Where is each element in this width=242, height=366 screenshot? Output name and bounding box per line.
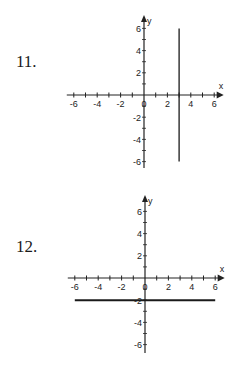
x-tick-label: 2 bbox=[165, 99, 170, 109]
x-tick-label: -6 bbox=[70, 99, 78, 109]
y-tick-label: 6 bbox=[136, 24, 141, 34]
x-tick-label: -2 bbox=[118, 282, 126, 292]
x-axis-arrow-icon bbox=[218, 275, 225, 282]
y-tick-label: 2 bbox=[137, 251, 142, 261]
x-axis-label: x bbox=[219, 81, 224, 91]
x-axis-arrow-icon bbox=[217, 92, 224, 99]
graph-12-horizontal-line: xy-6-4-20246-6-4-2246 bbox=[0, 183, 242, 366]
y-axis-label: y bbox=[148, 196, 153, 206]
y-tick-label: 4 bbox=[136, 46, 141, 56]
x-tick-label: -4 bbox=[93, 99, 101, 109]
y-tick-label: -4 bbox=[134, 318, 142, 328]
y-tick-label: -6 bbox=[134, 340, 142, 350]
x-tick-label: 6 bbox=[213, 282, 218, 292]
x-tick-label: 6 bbox=[212, 99, 217, 109]
y-tick-label: 6 bbox=[137, 207, 142, 217]
y-tick-label: -6 bbox=[133, 157, 141, 167]
x-tick-label: -6 bbox=[71, 282, 79, 292]
x-tick-label: -4 bbox=[94, 282, 102, 292]
x-tick-label: 2 bbox=[166, 282, 171, 292]
x-tick-label: 4 bbox=[189, 282, 194, 292]
x-tick-label: 4 bbox=[188, 99, 193, 109]
x-tick-label: 0 bbox=[141, 99, 146, 109]
graph-11-vertical-line: xy-6-4-20246-6-4-2246 bbox=[0, 0, 242, 183]
y-tick-label: 2 bbox=[136, 68, 141, 78]
y-tick-label: -2 bbox=[133, 113, 141, 123]
y-tick-label: -4 bbox=[133, 135, 141, 145]
x-axis-label: x bbox=[220, 264, 225, 274]
x-tick-label: 0 bbox=[142, 282, 147, 292]
y-axis-label: y bbox=[147, 16, 152, 26]
x-tick-label: -2 bbox=[117, 99, 125, 109]
y-tick-label: 4 bbox=[137, 229, 142, 239]
